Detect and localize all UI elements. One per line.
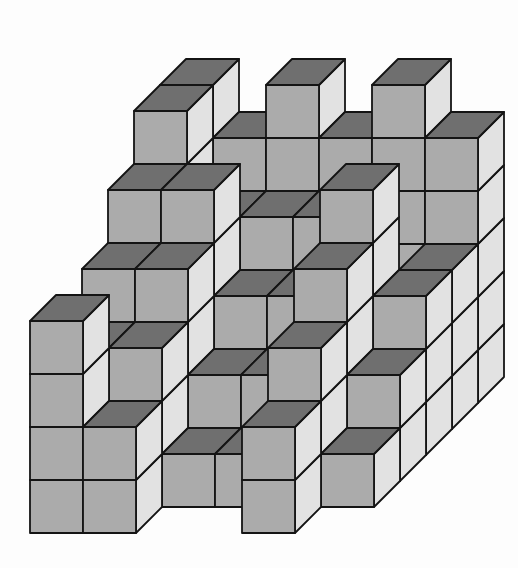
cube-front-face	[134, 111, 187, 164]
cube-front-face	[242, 427, 295, 480]
cube-front-face	[83, 427, 136, 480]
cube-front-face	[320, 190, 373, 243]
cube-front-face	[425, 138, 478, 191]
cube-front-face	[162, 454, 215, 507]
cube-front-face	[214, 296, 267, 349]
cube-front-face	[321, 454, 374, 507]
cube-front-face	[425, 191, 478, 244]
cube-front-face	[108, 190, 161, 243]
cube-front-face	[188, 375, 241, 428]
cube-front-face	[347, 375, 400, 428]
cube-front-face	[372, 85, 425, 138]
cube-structure-figure	[0, 0, 518, 568]
cube-front-face	[294, 269, 347, 322]
cube-front-face	[240, 217, 293, 270]
cube-front-face	[135, 269, 188, 322]
cube-front-face	[30, 480, 83, 533]
cube-front-face	[242, 480, 295, 533]
cube-front-face	[30, 374, 83, 427]
cube-front-face	[373, 296, 426, 349]
cube-front-face	[109, 348, 162, 401]
cube-front-face	[268, 348, 321, 401]
page	[0, 0, 518, 568]
cube-front-face	[266, 85, 319, 138]
cube-front-face	[161, 190, 214, 243]
cube-front-face	[83, 480, 136, 533]
cube-front-face	[30, 321, 83, 374]
cube-front-face	[30, 427, 83, 480]
cube-front-face	[266, 138, 319, 191]
